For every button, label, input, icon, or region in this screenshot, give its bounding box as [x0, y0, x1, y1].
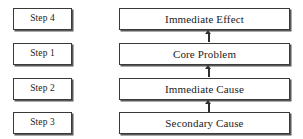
diagram-canvas: Step 4 Immediate Effect Step 1 Core Prob…	[0, 0, 303, 139]
arrow-up-secondary-cause-to-immediate-cause	[203, 100, 215, 112]
arrow-stem	[208, 68, 210, 77]
step-box-1-label: Step 4	[30, 14, 55, 24]
diagram-row-2: Step 1 Core Problem	[0, 43, 303, 67]
step-box-4-label: Step 3	[30, 118, 55, 128]
node-box-immediate-effect[interactable]: Immediate Effect	[119, 8, 290, 30]
step-box-3-label: Step 2	[30, 84, 55, 94]
arrow-up-core-problem-to-immediate-effect	[203, 30, 215, 42]
node-box-immediate-cause[interactable]: Immediate Cause	[119, 78, 290, 100]
diagram-row-4: Step 3 Secondary Cause	[0, 112, 303, 136]
arrow-stem	[208, 33, 210, 42]
node-box-secondary-cause[interactable]: Secondary Cause	[119, 112, 290, 134]
step-box-2[interactable]: Step 1	[13, 43, 72, 65]
diagram-row-3: Step 2 Immediate Cause	[0, 78, 303, 102]
node-box-immediate-effect-label: Immediate Effect	[165, 14, 244, 25]
node-box-secondary-cause-label: Secondary Cause	[165, 118, 243, 129]
node-box-core-problem-label: Core Problem	[173, 49, 236, 60]
arrow-stem	[208, 103, 210, 112]
step-box-3[interactable]: Step 2	[13, 78, 72, 100]
node-box-core-problem[interactable]: Core Problem	[119, 43, 290, 65]
step-box-1[interactable]: Step 4	[13, 8, 72, 30]
diagram-row-1: Step 4 Immediate Effect	[0, 8, 303, 32]
node-box-immediate-cause-label: Immediate Cause	[165, 84, 244, 95]
arrow-up-immediate-cause-to-core-problem	[203, 65, 215, 77]
step-box-4[interactable]: Step 3	[13, 112, 72, 134]
step-box-2-label: Step 1	[30, 49, 55, 59]
